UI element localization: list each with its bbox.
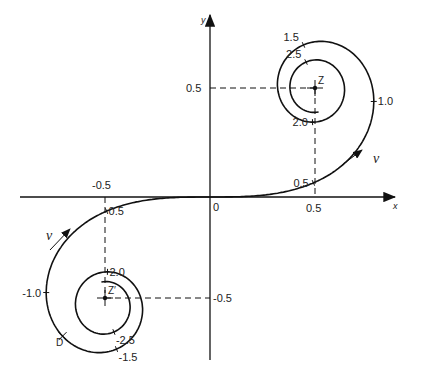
svg-text:Z′: Z′ — [108, 285, 116, 296]
svg-text:-1.0: -1.0 — [22, 287, 41, 299]
svg-text:v: v — [46, 228, 53, 243]
svg-text:v: v — [373, 151, 380, 166]
svg-text:1.5: 1.5 — [284, 31, 299, 43]
svg-text:-1.5: -1.5 — [118, 351, 137, 363]
svg-text:2.5: 2.5 — [286, 48, 301, 60]
y-axis-label: y — [200, 15, 206, 25]
point-D: D — [56, 332, 67, 348]
svg-text:Z: Z — [318, 75, 324, 86]
direction-arrow-upper: v — [342, 150, 380, 166]
svg-text:2.0: 2.0 — [109, 266, 124, 278]
origin-label: 0 — [213, 201, 219, 213]
x-tick-neg-0.5: -0.5 — [92, 179, 111, 191]
x-tick-0.5: 0.5 — [306, 202, 321, 214]
point-Z-prime: Z′ — [97, 285, 116, 306]
svg-text:-2.5: -2.5 — [116, 334, 135, 346]
svg-text:1.0: 1.0 — [378, 95, 393, 107]
svg-text:2.0: 2.0 — [293, 116, 308, 128]
y-tick-neg-0.5: -0.5 — [213, 292, 232, 304]
svg-text:0.5: 0.5 — [293, 177, 308, 189]
x-axis-label: x — [392, 201, 398, 211]
cornu-spiral-diagram: x y 0 0.5 -0.5 0.5 -0.5 0.51.01.52.02.50… — [0, 0, 423, 385]
point-Z: Z — [307, 75, 324, 96]
svg-text:0.5: 0.5 — [109, 205, 124, 217]
y-tick-0.5: 0.5 — [186, 82, 201, 94]
